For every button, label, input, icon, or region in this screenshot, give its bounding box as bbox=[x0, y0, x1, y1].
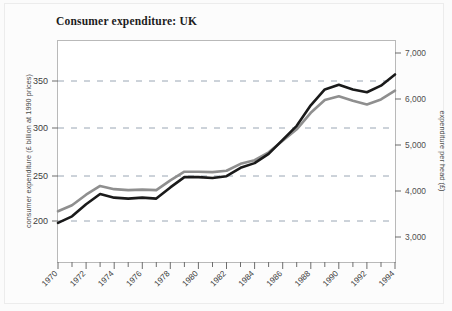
x-tick-label-1976: 1976 bbox=[124, 269, 144, 289]
x-tick-label-1982: 1982 bbox=[209, 269, 229, 289]
left-tick-label-300: 300 bbox=[33, 123, 48, 133]
figure-container: Consumer expenditure: UK 350 300 250 200 bbox=[0, 0, 452, 311]
x-tick-label-1986: 1986 bbox=[265, 269, 285, 289]
x-tick-label-1992: 1992 bbox=[349, 269, 369, 289]
left-tick-label-200: 200 bbox=[33, 216, 48, 226]
right-tick-label-4000: 4,000 bbox=[405, 186, 426, 196]
right-tick-label-3000: 3,000 bbox=[405, 232, 426, 242]
left-tick-label-350: 350 bbox=[33, 76, 48, 86]
x-tick-label-1988: 1988 bbox=[293, 269, 313, 289]
x-tick-label-1974: 1974 bbox=[96, 269, 116, 289]
right-tick-label-7000: 7,000 bbox=[405, 48, 426, 58]
right-axis-title: expenditure per head (£) bbox=[438, 110, 447, 191]
x-tick-label-1978: 1978 bbox=[152, 269, 172, 289]
x-tick-label-1994: 1994 bbox=[377, 269, 397, 289]
x-axis-tick-labels: 1970197219741976197819801982198419861988… bbox=[40, 269, 397, 289]
left-tick-label-250: 250 bbox=[33, 171, 48, 181]
chart-plot: 350 300 250 200 7,000 6,000 5,000 4,000 … bbox=[0, 0, 452, 311]
x-axis-ticks bbox=[58, 262, 395, 269]
x-tick-label-1970: 1970 bbox=[40, 269, 60, 289]
x-tick-label-1990: 1990 bbox=[321, 269, 341, 289]
plot-frame bbox=[58, 41, 396, 263]
right-tick-label-6000: 6,000 bbox=[405, 94, 426, 104]
x-tick-label-1972: 1972 bbox=[68, 269, 88, 289]
left-axis-title: consumer expenditure (£ billion at 1990 … bbox=[24, 74, 33, 228]
right-tick-label-5000: 5,000 bbox=[405, 140, 426, 150]
x-tick-label-1984: 1984 bbox=[237, 269, 257, 289]
x-tick-label-1980: 1980 bbox=[181, 269, 201, 289]
